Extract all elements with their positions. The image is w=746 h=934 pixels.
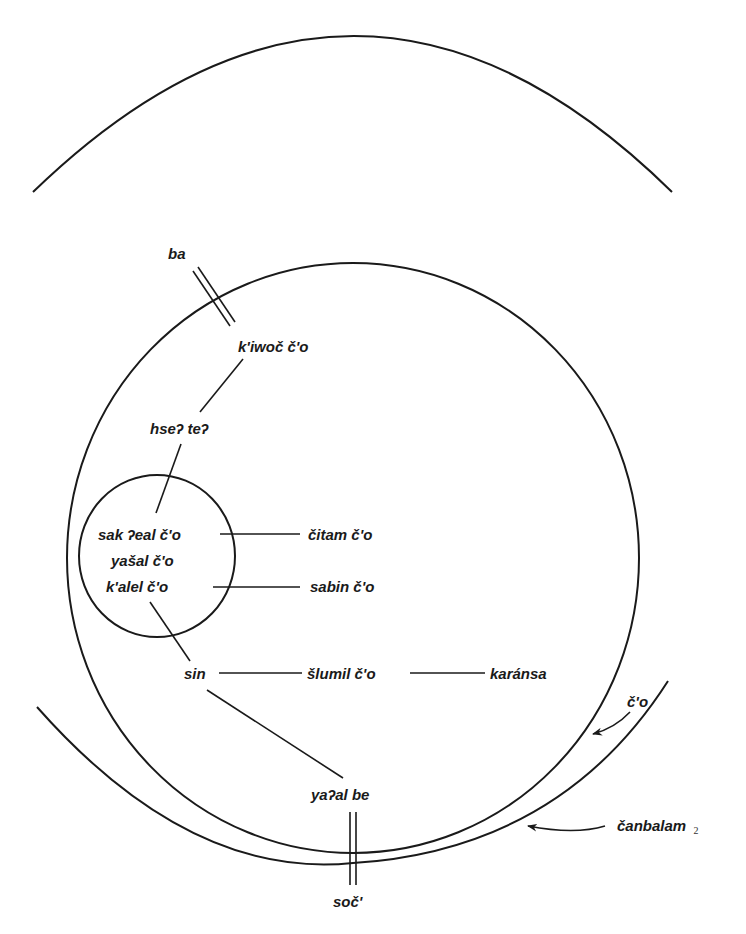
edge-kiwoc-hsete [200,359,243,412]
label-karansa: karánsa [490,665,547,682]
label-hse-te: hseʔ teʔ [150,420,209,437]
label-sabin-co: sabin č'o [310,578,374,595]
label-sin: sin [184,665,206,682]
label-kalel-co: k'alel č'o [106,578,168,595]
co-pointer-arrow [593,712,630,734]
label-sak-eal-co: sak ʔeal č'o [98,526,181,543]
ba-crossing-line-1 [193,271,230,326]
label-soc: soč' [333,893,363,910]
label-ba: ba [168,245,186,262]
label-co-region: č'o [627,693,648,710]
outer-top-arc [33,36,672,192]
label-yaal-be: yaʔal be [310,786,369,803]
label-citam-co: čitam č'o [308,526,372,543]
label-canbalam-region: čanbalam 2 [617,817,698,836]
canbalam-subscript: 2 [693,825,698,836]
label-kiwoc-co: k'iwoč č'o [238,338,309,355]
outer-bottom-arc-canbalam [37,681,668,865]
canbalam-text: čanbalam [617,817,686,834]
ba-crossing-line-2 [198,267,235,322]
canbalam-pointer-arrow [528,826,605,831]
label-yasal-co: yašal č'o [110,552,174,569]
cosmology-diagram: ba k'iwoč č'o hseʔ teʔ sak ʔeal č'o yaša… [0,0,746,934]
label-slumil-co: šlumil č'o [307,665,376,682]
edge-sin-yaalbe [207,690,343,778]
